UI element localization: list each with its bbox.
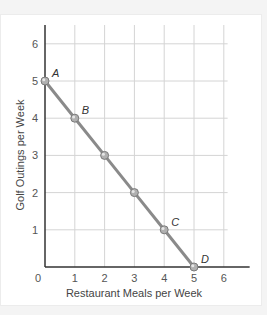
data-point-marker [160,226,168,234]
x-tick-label: 4 [161,272,167,284]
x-tick-label: 2 [102,272,108,284]
x-tick-label: 5 [191,272,197,284]
marker-highlight [162,227,165,230]
data-point-marker [190,263,198,271]
data-point-marker [130,189,138,197]
marker-highlight [72,116,75,119]
grid-lines [45,25,228,267]
data-point-marker [71,114,79,122]
data-point-marker [41,77,49,85]
y-tick-label: 6 [32,38,38,50]
y-tick-label: 3 [32,149,38,161]
tick-labels: 0123456123456 [32,38,227,284]
series-line [45,81,194,267]
point-label-d: D [201,253,209,265]
data-point-marker [101,151,109,159]
y-tick-label: 4 [32,112,38,124]
marker-highlight [42,78,45,81]
data-series [41,77,198,271]
chart: 0123456123456 ABCD Restaurant Meals per … [0,0,267,315]
marker-highlight [102,153,105,156]
marker-highlight [191,264,194,267]
marker-highlight [132,190,135,193]
y-axis-label: Golf Outings per Week [14,99,26,211]
x-axis-label: Restaurant Meals per Week [66,287,203,299]
x-tick-label: 3 [131,272,137,284]
x-tick-label: 6 [221,272,227,284]
point-label-c: C [171,216,179,228]
point-label-b: B [82,104,89,116]
y-tick-label: 2 [32,187,38,199]
x-tick-label: 1 [72,272,78,284]
axes [45,25,250,267]
y-tick-label: 1 [32,224,38,236]
y-tick-label: 5 [32,75,38,87]
x-tick-label: 0 [35,272,41,284]
point-label-a: A [51,67,59,79]
